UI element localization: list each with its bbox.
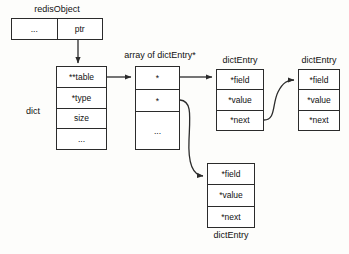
structure-diagram: redisObject ... ptr dict **table *type s…	[0, 0, 349, 254]
dict-cell-size: size	[57, 108, 106, 129]
entry2-caption: dictEntry	[293, 55, 345, 65]
redisobject-caption: redisObject	[11, 4, 103, 14]
entry1-cell-field: *field	[217, 70, 263, 89]
entry1-caption: dictEntry	[216, 55, 264, 65]
array-cell-1: *	[136, 89, 179, 111]
entry3-cell-next: *next	[208, 206, 254, 227]
entry3-box: *field *value *next	[207, 163, 255, 228]
entry3-cell-field: *field	[208, 164, 254, 184]
edge-entry1-next-to-entry2	[264, 80, 294, 120]
array-caption: array of dictEntry*	[108, 50, 212, 60]
entry1-box: *field *value *next	[216, 69, 264, 131]
redisobject-cell-ptr: ptr	[57, 19, 103, 39]
dict-box: **table *type size ...	[56, 66, 107, 150]
entry2-cell-value: *value	[299, 89, 339, 109]
dict-cell-type: *type	[57, 87, 106, 108]
entry2-box: *field *value *next	[298, 69, 340, 131]
array-cell-0: *	[136, 67, 179, 89]
edge-array1-to-entry3	[180, 100, 203, 176]
redisobject-cell-ellipsis: ...	[12, 19, 57, 39]
dict-cell-table: **table	[57, 67, 106, 87]
entry3-cell-value: *value	[208, 184, 254, 205]
array-cell-ellipsis: ...	[136, 111, 179, 149]
redisobject-box: ... ptr	[11, 18, 103, 40]
entry3-caption: dictEntry	[207, 230, 255, 240]
entry1-cell-value: *value	[217, 89, 263, 109]
entry2-cell-next: *next	[299, 110, 339, 130]
entry1-cell-next: *next	[217, 110, 263, 130]
array-box: * * ...	[135, 66, 180, 150]
dict-cell-ellipsis: ...	[57, 128, 106, 149]
entry2-cell-field: *field	[299, 70, 339, 89]
dict-caption: dict	[12, 106, 54, 116]
